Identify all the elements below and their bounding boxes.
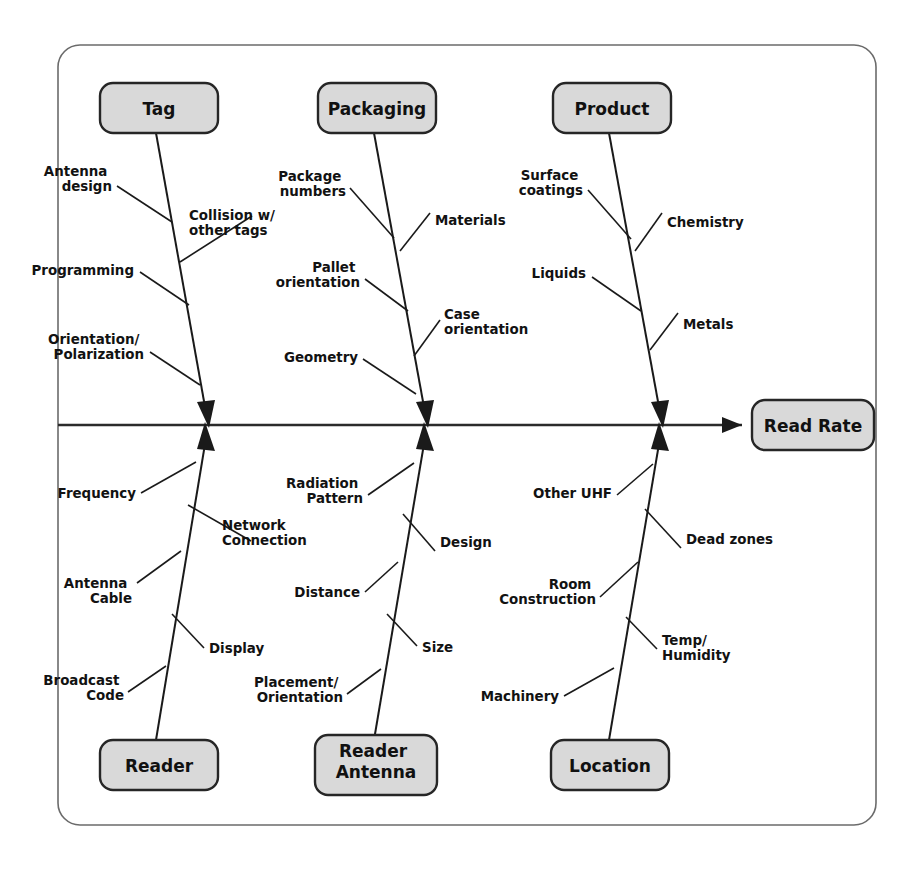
cause-reader-antenna-size: Size (422, 640, 453, 655)
cause-reader-antenna-design: Design (440, 535, 492, 550)
category-box-packaging[interactable]: Packaging (318, 83, 436, 133)
cause-location-dead-zones: Dead zones (686, 532, 773, 547)
cause-reader-display: Display (209, 641, 264, 656)
category-box-reader[interactable]: Reader (100, 740, 218, 790)
cause-product-surface-coatings: Surface coatings (519, 168, 583, 198)
cause-tag-orientation: Orientation/ Polarization (48, 332, 144, 362)
cause-reader-frequency: Frequency (58, 486, 137, 501)
cause-product-liquids: Liquids (532, 266, 586, 281)
category-box-location-label: Location (569, 756, 651, 776)
cause-reader-antenna-distance: Distance (294, 585, 360, 600)
fishbone-canvas: Antenna design Collision w/ other tags P… (0, 0, 919, 885)
cause-tag-antenna-design: Antenna design (44, 164, 112, 194)
category-box-reader-label: Reader (125, 756, 194, 776)
effect-box-read-rate-label: Read Rate (764, 416, 862, 436)
cause-tag-collision: Collision w/ other tags (189, 208, 280, 238)
effect-box-read-rate[interactable]: Read Rate (752, 400, 874, 450)
category-box-location[interactable]: Location (551, 740, 669, 790)
category-box-reader-antenna-label: Reader Antenna (336, 741, 417, 782)
cause-product-metals: Metals (683, 317, 733, 332)
cause-packaging-geometry: Geometry (284, 350, 358, 365)
category-box-product-label: Product (575, 99, 650, 119)
cause-packaging-package-numbers: Package numbers (278, 169, 346, 199)
category-box-packaging-label: Packaging (328, 99, 427, 119)
cause-packaging-materials: Materials (435, 213, 506, 228)
category-box-tag[interactable]: Tag (100, 83, 218, 133)
category-box-product[interactable]: Product (553, 83, 671, 133)
fishbone-diagram: Antenna design Collision w/ other tags P… (0, 0, 919, 885)
cause-product-chemistry: Chemistry (667, 215, 744, 230)
cause-location-machinery: Machinery (481, 689, 560, 704)
cause-reader-antenna-placement: Placement/ Orientation (254, 675, 343, 705)
category-box-tag-label: Tag (142, 99, 175, 119)
cause-location-other-uhf: Other UHF (533, 486, 612, 501)
cause-tag-programming: Programming (32, 263, 134, 278)
category-box-reader-antenna[interactable]: Reader Antenna (315, 735, 437, 795)
